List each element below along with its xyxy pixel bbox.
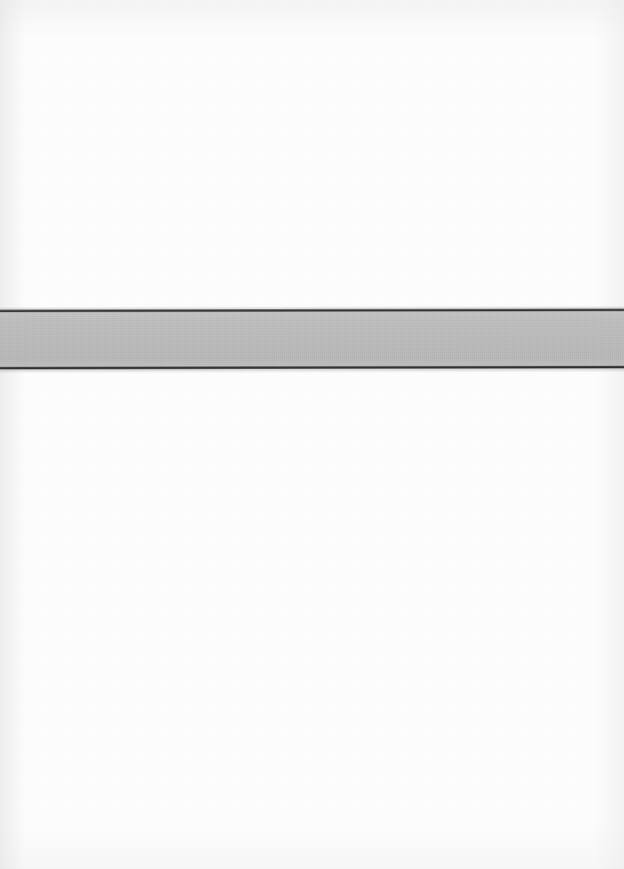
horizontal-gray-band [0, 308, 624, 369]
blank-area-below [0, 369, 624, 869]
blank-area-above [0, 0, 624, 309]
band-fill [0, 308, 624, 369]
band-top-rule [0, 308, 624, 312]
scanned-page [0, 0, 624, 869]
